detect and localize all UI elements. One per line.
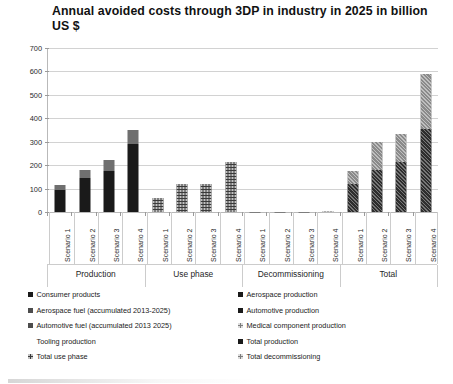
category-tick — [145, 212, 146, 216]
bar-segment — [103, 171, 114, 212]
legend-label: Aerospace production — [247, 290, 318, 300]
legend-swatch-icon — [238, 354, 243, 359]
bar-segment — [55, 190, 66, 212]
category-separator — [74, 212, 75, 264]
bar[interactable] — [201, 184, 212, 212]
category-tick — [193, 212, 194, 216]
bar-slot — [72, 48, 96, 212]
category-separator — [220, 212, 221, 264]
bar-segment — [372, 170, 383, 212]
category-separator — [269, 212, 270, 264]
group-label: Total — [340, 269, 438, 279]
category-tick — [291, 212, 292, 216]
category-separator — [195, 212, 196, 264]
bar-slot — [365, 48, 389, 212]
bar-slot — [146, 48, 170, 212]
bar-slot — [243, 48, 267, 212]
category-tick — [266, 212, 267, 216]
bar[interactable] — [103, 160, 114, 212]
bar[interactable] — [152, 198, 163, 212]
legend-swatch-icon — [28, 323, 33, 328]
chart-legend: Consumer productsAerospace fuel (accumul… — [28, 290, 432, 378]
chart-container: Annual avoided costs through 3DP in indu… — [0, 0, 453, 384]
group-separator — [145, 265, 146, 287]
category-separator — [415, 212, 416, 264]
category-axis: Scenario 1Scenario 2Scenario 3Scenario 4… — [47, 212, 437, 264]
category-separator — [98, 212, 99, 264]
category-tick — [71, 212, 72, 216]
legend-swatch-icon — [28, 354, 33, 359]
legend-swatch-icon — [28, 339, 33, 344]
y-axis-tick-label: 400 — [2, 114, 42, 123]
legend-label: Medical component production — [247, 321, 346, 331]
category-tick — [242, 212, 243, 216]
category-separator — [122, 212, 123, 264]
category-label: Scenario 1 — [64, 218, 71, 262]
category-separator — [49, 212, 50, 264]
legend-swatch-icon — [28, 292, 33, 297]
bar-segment — [152, 198, 163, 212]
bar[interactable] — [79, 170, 90, 212]
category-label: Scenario 2 — [89, 218, 96, 262]
category-label: Scenario 4 — [332, 218, 339, 262]
bar-segment — [177, 184, 188, 212]
legend-item[interactable]: Aerospace production — [238, 290, 432, 306]
legend-label: Tooling production — [37, 337, 96, 347]
bar-segment — [420, 129, 431, 212]
bar-segment — [79, 178, 90, 212]
bar-slot — [292, 48, 316, 212]
legend-item[interactable]: Medical component production — [238, 321, 432, 337]
chart-title: Annual avoided costs through 3DP in indu… — [52, 4, 442, 34]
category-separator — [293, 212, 294, 264]
legend-swatch-icon — [238, 292, 243, 297]
bar[interactable] — [177, 184, 188, 212]
legend-swatch-icon — [238, 339, 243, 344]
legend-item[interactable]: Automotive production — [238, 306, 432, 322]
category-label: Scenario 4 — [235, 218, 242, 262]
bar-slot — [414, 48, 438, 212]
bar-slot — [316, 48, 340, 212]
bar-segment — [128, 144, 139, 212]
bar-segment — [396, 162, 407, 212]
category-tick — [364, 212, 365, 216]
legend-item[interactable]: Total decommissioning — [238, 352, 432, 368]
legend-item[interactable]: Consumer products — [28, 290, 238, 306]
category-label: Scenario 2 — [381, 218, 388, 262]
bar[interactable] — [55, 185, 66, 212]
legend-label: Total use phase — [37, 352, 88, 362]
group-axis: ProductionUse phaseDecommissioningTotal — [47, 264, 437, 287]
category-tick — [413, 212, 414, 216]
bar[interactable] — [347, 171, 358, 212]
legend-column-left: Consumer productsAerospace fuel (accumul… — [28, 290, 238, 368]
category-label: Scenario 2 — [284, 218, 291, 262]
legend-item[interactable]: Total use phase — [28, 352, 238, 368]
legend-item[interactable]: Aerospace fuel (accumulated 2013-2025) — [28, 306, 238, 322]
group-separator — [340, 265, 341, 287]
category-tick — [169, 212, 170, 216]
bar[interactable] — [225, 162, 236, 212]
bar[interactable] — [372, 142, 383, 212]
category-tick — [315, 212, 316, 216]
y-axis-tick-label: 500 — [2, 91, 42, 100]
bar-segment — [347, 184, 358, 212]
legend-item[interactable]: Tooling production — [28, 337, 238, 353]
bar[interactable] — [128, 130, 139, 212]
legend-item[interactable]: Total production — [238, 337, 432, 353]
y-axis-tick-label: 600 — [2, 67, 42, 76]
bar-segment — [225, 162, 236, 212]
bar[interactable] — [420, 74, 431, 212]
category-label: Scenario 3 — [405, 218, 412, 262]
bar[interactable] — [396, 134, 407, 212]
legend-label: Total decommissioning — [247, 352, 321, 362]
legend-item[interactable]: Automotive fuel (accumulated 2013 2025) — [28, 321, 238, 337]
category-label: Scenario 3 — [113, 218, 120, 262]
page-artifact — [8, 379, 258, 383]
category-separator — [147, 212, 148, 264]
category-label: Scenario 3 — [308, 218, 315, 262]
category-label: Scenario 2 — [186, 218, 193, 262]
category-tick — [47, 212, 48, 216]
bar-slot — [341, 48, 365, 212]
group-separator — [242, 265, 243, 287]
bar-segment — [128, 130, 139, 144]
bar-slot — [267, 48, 291, 212]
